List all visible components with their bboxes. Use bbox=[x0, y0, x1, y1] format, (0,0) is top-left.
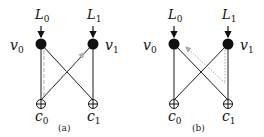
variable-node-v1 bbox=[223, 39, 234, 50]
variable-node-v0 bbox=[169, 39, 180, 50]
input-label-L1: L1 bbox=[221, 7, 236, 24]
check-label-c0: c0 bbox=[168, 108, 182, 126]
input-label-L1: L1 bbox=[86, 7, 101, 24]
check-label-c1: c1 bbox=[87, 108, 101, 126]
variable-label-v0: v0 bbox=[143, 37, 157, 55]
variable-label-v0: v0 bbox=[10, 37, 24, 55]
input-label-L0: L0 bbox=[34, 7, 50, 24]
check-label-c0: c0 bbox=[35, 108, 49, 126]
variable-label-v1: v1 bbox=[105, 37, 119, 55]
panel-a: L0 L1 v0 v1 c0 c1 (a) bbox=[10, 7, 119, 133]
message-path-arrow bbox=[44, 50, 84, 96]
diagram-canvas: L0 L1 v0 v1 c0 c1 (a) bbox=[0, 0, 264, 137]
message-path-arrow bbox=[186, 47, 225, 83]
panel-caption-a: (a) bbox=[58, 123, 70, 133]
variable-node-v1 bbox=[88, 39, 99, 50]
variable-label-v1: v1 bbox=[240, 37, 254, 55]
panel-b: L0 L1 v0 v1 c0 c1 (b) bbox=[143, 7, 254, 133]
variable-node-v0 bbox=[36, 39, 47, 50]
panel-caption-b: (b) bbox=[192, 123, 205, 133]
input-label-L0: L0 bbox=[167, 7, 183, 24]
check-label-c1: c1 bbox=[222, 108, 236, 126]
